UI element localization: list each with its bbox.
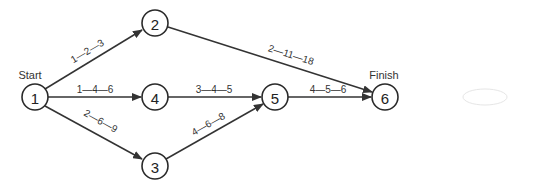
edge-5-6: 4—5—6 [288, 84, 371, 97]
edge-4-5: 3—4—5 [168, 84, 261, 97]
edge-label-3-5: 4—6—8 [190, 110, 228, 138]
node-4-label: 4 [151, 90, 159, 107]
node-6-label: 6 [381, 90, 389, 107]
edge-3-5: 4—6—8 [166, 104, 263, 159]
node-4: 4 [142, 84, 168, 110]
node-5-label: 5 [271, 90, 279, 107]
node-3: 3 [142, 153, 168, 179]
edge-label-2-6: 2—11—18 [267, 42, 316, 67]
node-1-label: 1 [31, 90, 39, 107]
node-2: 2 [142, 10, 168, 36]
edge-label-5-6: 4—5—6 [310, 84, 347, 95]
edge-1-2: 1—2—3 [45, 30, 142, 89]
node-6: 6 [372, 84, 398, 110]
edge-label-4-5: 3—4—5 [196, 84, 233, 95]
start-label: Start [18, 69, 41, 81]
edge-2-6: 2—11—18 [168, 27, 372, 92]
edge-label-1-4: 1—4—6 [77, 84, 114, 95]
edge-label-1-2: 1—2—3 [69, 37, 106, 66]
node-3-label: 3 [151, 159, 159, 176]
node-1: 1 [22, 84, 48, 110]
edge-1-4: 1—4—6 [48, 84, 141, 97]
edge-label-1-3: 2—6—9 [82, 107, 120, 135]
node-2-label: 2 [151, 16, 159, 33]
pert-diagram: 1—2—3 1—4—6 2—6—9 2—11—18 3—4—5 4—6—8 4—… [0, 0, 535, 194]
scan-smudge [463, 89, 507, 105]
node-5: 5 [262, 84, 288, 110]
finish-label: Finish [369, 69, 398, 81]
edge-1-3: 2—6—9 [45, 106, 142, 159]
